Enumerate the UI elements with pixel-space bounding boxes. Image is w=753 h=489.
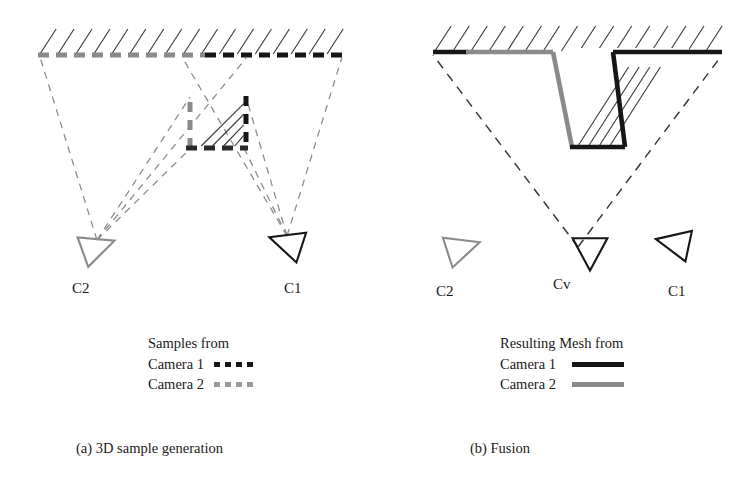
view-ray-7 [182,57,287,236]
legend-label-camera1: Camera 1 [500,354,556,374]
notch-hatch-mark [224,125,244,146]
camera-label-C2: C2 [72,280,90,297]
virtual-view-ray-0 [433,55,578,247]
legend-title: Resulting Mesh from [500,333,624,353]
surface-hatch-mark [453,26,469,51]
legend-title: Samples from [148,333,254,353]
panel-3d-sample-generation: Samples from Camera 1 Camera 2 (a) 3D sa… [0,0,377,489]
surface-hatch-mark [219,29,235,54]
mesh-segment-left-wall [553,52,572,147]
surface-hatch-mark [94,29,110,54]
notch-hatch-mark [201,104,244,146]
notch-hatch-group [201,104,244,146]
surface-hatch-mark [255,29,271,54]
surface-hatch-mark [327,29,343,54]
camera-C2 [443,227,485,267]
surface-hatch-mark [291,29,307,54]
legend-samples: Samples from Camera 1 Camera 2 [148,333,254,394]
legend-resulting-mesh: Resulting Mesh from Camera 1 Camera 2 [500,333,624,394]
surface-hatch-mark [561,26,577,51]
legend-swatch-camera1 [214,362,254,367]
surface-hatch-mark [543,26,559,51]
panel-a-caption: (a) 3D sample generation [76,440,223,457]
camera-glyph-Cv [573,238,608,270]
panel-b-scene [377,0,753,489]
camera-glyph-C1 [264,222,306,262]
surface-hatch-mark [166,29,182,54]
mesh-segment-right-wall [613,52,625,147]
camera-label-C2: C2 [436,283,454,300]
surface-hatch-mark [489,26,505,51]
camera-glyph-C2 [78,226,120,267]
surface-hatch-mark [634,26,650,51]
camera-glyph-C2 [443,227,485,267]
surface-hatch-mark [130,29,146,54]
surface-hatch-mark [40,29,56,54]
surface-hatch-mark [184,29,200,54]
surface-hatch-mark [507,26,523,51]
legend-label-camera1: Camera 1 [148,354,204,374]
legend-swatch-camera2 [214,382,254,387]
surface-hatch-mark [616,26,632,51]
panel-fusion: Resulting Mesh from Camera 1 Camera 2 (b… [377,0,753,489]
surface-hatch-mark [580,26,596,51]
surface-hatch-mark [670,26,686,51]
legend-row-camera1: Camera 1 [500,354,624,374]
camera-label-C1: C1 [284,280,302,297]
legend-label-camera2: Camera 2 [148,374,204,394]
camera-C1 [264,222,306,262]
surface-hatch-mark [76,29,92,54]
legend-row-camera1: Camera 1 [148,354,254,374]
surface-hatch-mark [112,29,128,54]
surface-hatch-mark [58,29,74,54]
view-ray-1 [97,97,190,240]
surface-hatch-mark [471,26,487,51]
camera-C2 [78,226,120,267]
legend-row-camera2: Camera 2 [500,374,624,394]
surface-hatch-mark [148,29,164,54]
notch-hatch-mark [235,135,244,146]
view-ray-4 [287,57,342,236]
surface-hatch-mark [706,26,722,51]
camera-label-Cv: Cv [553,276,571,293]
camera-glyph-C1 [653,224,692,262]
surface-hatch-mark [435,26,451,51]
legend-swatch-camera1 [572,362,624,367]
surface-hatch-mark [309,29,325,54]
legend-row-camera2: Camera 2 [148,374,254,394]
figure-container: Samples from Camera 1 Camera 2 (a) 3D sa… [0,0,753,489]
view-ray-2 [97,146,193,240]
camera-C1 [653,224,692,262]
surface-hatch-mark [688,26,704,51]
surface-hatch-mark [652,26,668,51]
panel-a-scene [0,0,377,489]
surface-hatch-mark [525,26,541,51]
view-ray-5 [246,97,287,236]
view-ray-0 [40,57,97,240]
legend-label-camera2: Camera 2 [500,374,556,394]
surface-hatch-mark [273,29,289,54]
surface-hatch-mark [598,26,614,51]
panel-b-caption: (b) Fusion [470,440,530,457]
surface-hatch-mark [237,29,253,54]
camera-label-C1: C1 [668,283,686,300]
camera-Cv [573,238,608,270]
legend-swatch-camera2 [572,382,624,387]
surface-hatch-mark [201,29,217,54]
